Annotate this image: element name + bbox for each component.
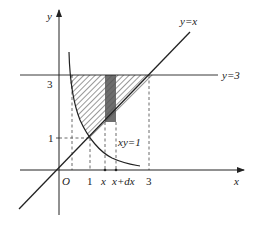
tick-x [104,169,107,172]
origin-label: O [62,175,70,187]
tick-x-plus-dx [115,169,118,172]
x-tick-3-label: 3 [146,175,152,187]
x-tick-x-label: x [100,175,106,187]
y-tick-3-label: 3 [47,78,53,90]
y-tick-1-label: 1 [48,132,54,144]
line-y3-label: y=3 [221,69,240,81]
y-axis-label: y [46,10,52,22]
line-yx-label: y=x [179,15,197,27]
integration-region-diagram: y x O 3 1 1 x x+dx 3 y=x y=3 xy=1 [0,0,258,233]
curve-xy1-label: xy=1 [117,136,141,148]
x-axis-label: x [233,175,239,187]
x-tick-xdx-label: x+dx [111,175,135,187]
x-tick-1-label: 1 [87,175,93,187]
